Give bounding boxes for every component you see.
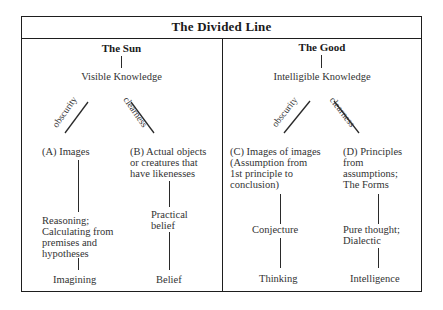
left-clearness-line: [131, 102, 154, 133]
right-obscurity-line: [284, 101, 310, 133]
right-clearness-line: [334, 101, 359, 133]
branch-lines: [0, 0, 443, 310]
left-obscurity-line: [65, 102, 88, 133]
